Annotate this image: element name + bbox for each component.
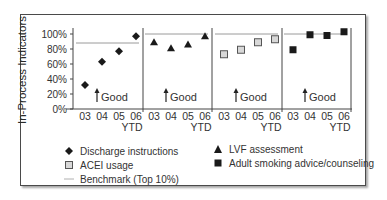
y-tick-label: 100% [41,29,67,40]
chart-plot: 100%80%60%40%20%0%03040506YTDGood0304050… [0,0,387,200]
panel-4: 03040506YTDGood [284,28,351,133]
diamond-marker [98,58,106,66]
diamond-marker [81,81,89,89]
panel-3: 03040506YTDGood [215,28,282,133]
open-square-marker [238,46,245,53]
diamond-icon [64,146,74,157]
x-tick-label: 04 [96,110,108,122]
panel-2: 03040506YTDGood [145,28,212,133]
triangle-marker [201,32,209,39]
x-tick-label: 04 [304,110,316,122]
legend-item-acei: ACEI usage [64,160,133,171]
x-tick-label-ytd: YTD [330,121,351,133]
x-tick-label: 04 [235,110,247,122]
y-tick-label: 40% [47,74,67,85]
x-tick-label-ytd: YTD [191,121,212,133]
line-icon [64,174,74,185]
up-arrow-head [234,88,239,93]
panel-1: 03040506YTDGood [76,28,143,133]
up-arrow-head [303,88,308,93]
legend-item-lvf: LVF assessment [213,144,303,155]
x-tick-label: 03 [287,110,299,122]
filled-square-marker [341,28,348,35]
x-tick-label: 03 [148,110,160,122]
open-square-marker [272,36,279,43]
y-tick-label: 20% [47,89,67,100]
triangle-marker [184,41,192,48]
diamond-marker [115,47,123,55]
filled-square-icon [213,158,223,169]
good-annotation: Good [309,91,336,103]
open-square-icon [64,160,74,171]
good-annotation: Good [170,91,197,103]
x-tick-label: 03 [79,110,91,122]
filled-square-marker [324,32,331,39]
up-arrow-head [164,88,169,93]
legend-item-smoking: Adult smoking advice/counseling [213,158,374,169]
x-tick-label-ytd: YTD [122,121,143,133]
x-tick-label: 04 [165,110,177,122]
open-square-marker [221,51,228,58]
good-annotation: Good [240,91,267,103]
triangle-marker [150,38,158,45]
diamond-marker [132,32,140,40]
triangle-marker [167,44,175,51]
filled-square-marker [290,46,297,53]
x-tick-label: 03 [218,110,230,122]
triangle-icon [213,144,223,155]
legend-item-discharge: Discharge instructions [64,146,178,157]
filled-square-marker [307,31,314,38]
y-tick-label: 0% [53,104,68,115]
legend-item-benchmark: Benchmark (Top 10%) [64,174,179,185]
y-tick-label: 60% [47,59,67,70]
open-square-marker [255,39,262,46]
up-arrow-head [95,88,100,93]
good-annotation: Good [101,91,128,103]
y-tick-label: 80% [47,44,67,55]
x-tick-label-ytd: YTD [261,121,282,133]
